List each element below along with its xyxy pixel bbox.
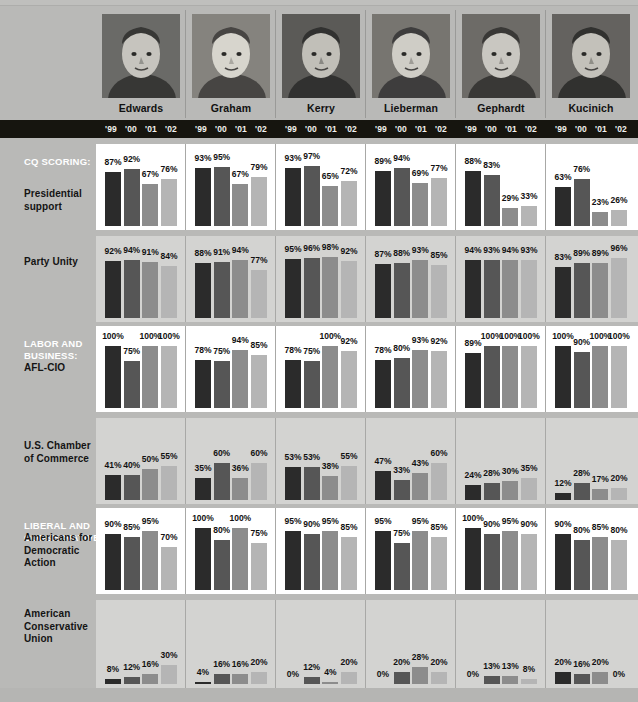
bar-item[interactable]: 8% — [521, 600, 537, 684]
bar-item[interactable]: 33% — [521, 144, 537, 226]
bar-rect[interactable] — [304, 677, 320, 684]
bar-rect[interactable] — [521, 679, 537, 684]
bar-item[interactable]: 55% — [161, 418, 177, 500]
bar-rect[interactable] — [465, 485, 481, 500]
bar-item[interactable]: 95% — [142, 508, 158, 590]
bar-item[interactable]: 95% — [214, 144, 230, 226]
bar-rect[interactable] — [251, 672, 267, 684]
bar-item[interactable]: 90% — [574, 326, 590, 408]
bar-rect[interactable] — [304, 258, 320, 318]
bar-item[interactable]: 67% — [232, 144, 248, 226]
bar-rect[interactable] — [232, 260, 248, 318]
bar-rect[interactable] — [232, 350, 248, 408]
bar-rect[interactable] — [465, 171, 481, 226]
bar-item[interactable]: 50% — [142, 418, 158, 500]
bar-rect[interactable] — [574, 483, 590, 500]
bar-rect[interactable] — [142, 674, 158, 684]
bar-item[interactable]: 91% — [142, 236, 158, 318]
bar-item[interactable]: 100% — [322, 326, 338, 408]
bar-rect[interactable] — [412, 531, 428, 590]
bar-rect[interactable] — [555, 493, 571, 500]
bar-rect[interactable] — [431, 672, 447, 684]
bar-rect[interactable] — [251, 463, 267, 500]
bar-item[interactable]: 100% — [161, 326, 177, 408]
bar-item[interactable]: 17% — [592, 418, 608, 500]
bar-rect[interactable] — [484, 676, 500, 684]
bar-rect[interactable] — [394, 672, 410, 684]
bar-item[interactable]: 95% — [375, 508, 391, 590]
bar-item[interactable]: 33% — [394, 418, 410, 500]
bar-item[interactable]: 55% — [341, 418, 357, 500]
bar-rect[interactable] — [431, 351, 447, 408]
bar-rect[interactable] — [142, 184, 158, 226]
bar-rect[interactable] — [592, 672, 608, 684]
bar-item[interactable]: 94% — [232, 236, 248, 318]
bar-rect[interactable] — [502, 208, 518, 226]
bar-item[interactable]: 43% — [412, 418, 428, 500]
bar-rect[interactable] — [251, 177, 267, 226]
bar-rect[interactable] — [105, 261, 121, 318]
bar-item[interactable]: 78% — [195, 326, 211, 408]
bar-item[interactable]: 90% — [555, 508, 571, 590]
bar-item[interactable]: 100% — [142, 326, 158, 408]
bar-rect[interactable] — [555, 672, 571, 684]
bar-item[interactable]: 95% — [412, 508, 428, 590]
bar-item[interactable]: 92% — [341, 326, 357, 408]
bar-item[interactable]: 100% — [521, 326, 537, 408]
bar-rect[interactable] — [611, 258, 627, 318]
bar-rect[interactable] — [124, 260, 140, 318]
bar-rect[interactable] — [341, 672, 357, 684]
bar-rect[interactable] — [431, 178, 447, 226]
bar-rect[interactable] — [574, 263, 590, 318]
bar-item[interactable]: 100% — [484, 326, 500, 408]
bar-item[interactable]: 75% — [124, 326, 140, 408]
bar-item[interactable]: 83% — [484, 144, 500, 226]
bar-rect[interactable] — [341, 466, 357, 500]
bar-item[interactable]: 75% — [251, 508, 267, 590]
bar-rect[interactable] — [574, 352, 590, 408]
bar-rect[interactable] — [611, 210, 627, 226]
bar-item[interactable]: 0% — [285, 600, 301, 684]
bar-item[interactable]: 93% — [412, 326, 428, 408]
bar-item[interactable]: 89% — [574, 236, 590, 318]
bar-rect[interactable] — [195, 360, 211, 408]
bar-rect[interactable] — [484, 346, 500, 408]
bar-item[interactable]: 20% — [431, 600, 447, 684]
bar-item[interactable]: 53% — [285, 418, 301, 500]
bar-item[interactable]: 96% — [304, 236, 320, 318]
bar-item[interactable]: 92% — [341, 236, 357, 318]
bar-rect[interactable] — [214, 361, 230, 408]
bar-item[interactable]: 75% — [214, 326, 230, 408]
bar-item[interactable]: 80% — [611, 508, 627, 590]
bar-rect[interactable] — [214, 463, 230, 500]
bar-rect[interactable] — [555, 534, 571, 590]
bar-rect[interactable] — [341, 181, 357, 226]
bar-item[interactable]: 95% — [322, 508, 338, 590]
bar-item[interactable]: 77% — [251, 236, 267, 318]
bar-item[interactable]: 87% — [375, 236, 391, 318]
bar-item[interactable]: 93% — [484, 236, 500, 318]
bar-item[interactable]: 98% — [322, 236, 338, 318]
bar-rect[interactable] — [521, 534, 537, 590]
bar-rect[interactable] — [124, 537, 140, 590]
bar-item[interactable]: 20% — [251, 600, 267, 684]
bar-rect[interactable] — [592, 346, 608, 408]
bar-rect[interactable] — [161, 266, 177, 318]
bar-rect[interactable] — [161, 665, 177, 684]
bar-rect[interactable] — [555, 346, 571, 408]
bar-rect[interactable] — [502, 481, 518, 500]
bar-rect[interactable] — [611, 540, 627, 590]
bar-item[interactable]: 87% — [105, 144, 121, 226]
bar-item[interactable]: 92% — [124, 144, 140, 226]
bar-rect[interactable] — [341, 261, 357, 318]
bar-rect[interactable] — [322, 476, 338, 500]
bar-rect[interactable] — [142, 531, 158, 590]
bar-rect[interactable] — [105, 172, 121, 226]
bar-item[interactable]: 30% — [502, 418, 518, 500]
bar-rect[interactable] — [232, 478, 248, 500]
bar-rect[interactable] — [521, 206, 537, 226]
bar-item[interactable]: 23% — [592, 144, 608, 226]
bar-rect[interactable] — [285, 467, 301, 500]
bar-rect[interactable] — [431, 537, 447, 590]
bar-rect[interactable] — [394, 168, 410, 226]
